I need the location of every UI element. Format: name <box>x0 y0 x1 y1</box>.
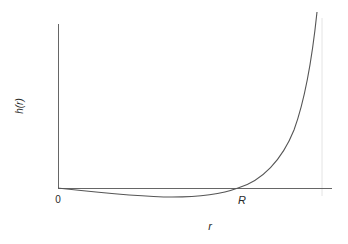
origin-tick-label: 0 <box>55 194 61 205</box>
chart: 0 R r h(r) <box>0 0 348 244</box>
root-tick-label: R <box>238 194 246 206</box>
x-axis-label: r <box>208 220 213 232</box>
h-curve <box>58 12 317 197</box>
y-axis-label: h(r) <box>14 98 25 114</box>
